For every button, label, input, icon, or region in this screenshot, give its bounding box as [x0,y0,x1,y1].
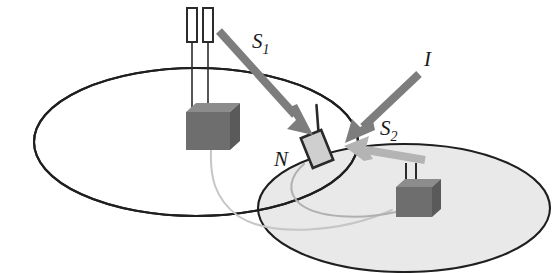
signal-two-label-base: S [380,116,391,140]
base-station-right-front-face [396,187,432,217]
antenna-element-left-a [187,8,197,42]
base-station-left-front-face [186,112,230,150]
antenna-element-left-b [203,8,213,42]
interference-label-base: I [423,47,432,71]
node-label-base: N [273,147,289,171]
signal-one-label-subscript: 1 [263,42,270,57]
arrow-interference-shaft [363,74,419,127]
signal-two-label: S2 [380,116,398,144]
node-label: N [273,147,289,171]
network-diagram-svg: S1 I S2 N [0,0,555,273]
interference-label: I [423,47,432,71]
signal-one-label-base: S [252,29,263,53]
signal-two-label-subscript: 2 [391,129,398,144]
signal-one-label: S1 [252,29,270,57]
figure-canvas: S1 I S2 N [0,0,555,273]
